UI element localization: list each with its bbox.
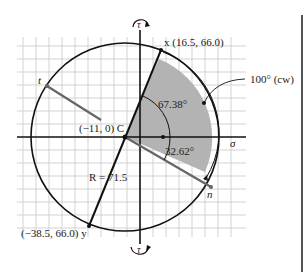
tau-bottom-arrowhead — [146, 245, 151, 252]
point-t-label: t — [38, 74, 42, 86]
lower-angle-label: 32.62° — [165, 145, 194, 157]
sigma-label: σ — [230, 137, 236, 149]
point-y — [87, 224, 91, 228]
point-t — [45, 84, 49, 88]
angle-arc-dot — [161, 135, 165, 139]
point-n-label: n — [207, 188, 213, 200]
center-label: (−11, 0) C — [79, 122, 124, 135]
tau-bottom-label: τ — [137, 244, 141, 255]
t-radius — [47, 86, 101, 120]
point-y-label: (−38.5, 66.0) y — [21, 227, 87, 240]
point-x — [159, 48, 163, 52]
frame-border — [301, 15, 303, 272]
radius-label: R = 71.5 — [89, 171, 128, 183]
upper-angle-label: 67.38° — [158, 98, 187, 110]
point-x-label: x (16.5, 66.0) — [164, 36, 224, 49]
rotation-angle-label: 100° (cw) — [250, 73, 294, 86]
rotation-leader-line — [204, 79, 245, 103]
mohrs-circle-diagram: τ τ σ x (16.5, 66.0) (−38.5, 66.0) y t n… — [0, 0, 306, 272]
tau-top-label: τ — [137, 19, 141, 30]
center-point — [123, 135, 128, 140]
